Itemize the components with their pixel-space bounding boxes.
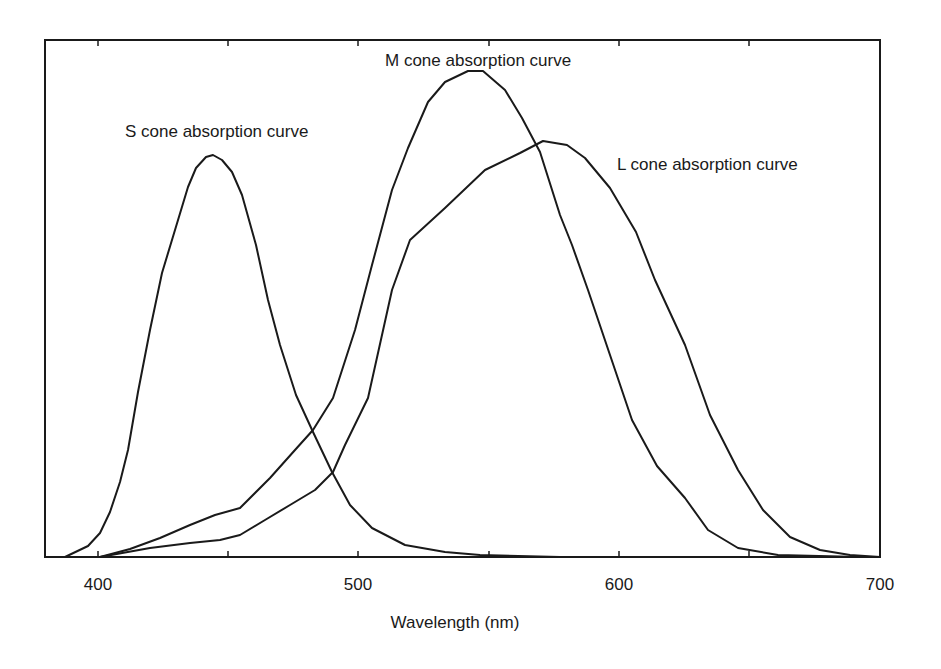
plot-frame — [45, 40, 880, 557]
s-cone-label: S cone absorption curve — [125, 122, 308, 141]
x-tick-label-600: 600 — [605, 575, 633, 594]
x-tick-label-700: 700 — [866, 575, 894, 594]
m-cone-label: M cone absorption curve — [385, 51, 571, 70]
x-tick-label-400: 400 — [84, 575, 112, 594]
m-cone-curve — [95, 71, 880, 557]
l-cone-curve — [95, 141, 880, 557]
l-cone-label: L cone absorption curve — [617, 155, 798, 174]
x-tick-label-500: 500 — [344, 575, 372, 594]
s-cone-curve — [55, 155, 880, 557]
x-axis-title: Wavelength (nm) — [391, 613, 520, 632]
cone-absorption-chart: S cone absorption curve M cone absorptio… — [0, 0, 941, 669]
